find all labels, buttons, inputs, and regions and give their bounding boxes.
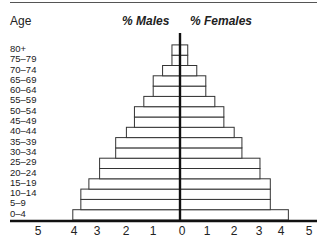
female-bar [180, 199, 270, 209]
tick-label: 0 [179, 224, 186, 238]
male-bar [89, 179, 180, 189]
tick-label: 2 [123, 224, 130, 238]
female-bar [180, 76, 206, 86]
tick-label: 4 [278, 224, 285, 238]
female-bar [180, 107, 224, 117]
male-bar [172, 55, 180, 65]
male-bar [81, 199, 180, 209]
female-bar [180, 179, 270, 189]
tick-label: 3 [256, 224, 263, 238]
male-bar [116, 138, 180, 148]
male-bar [81, 189, 180, 199]
male-bar [116, 148, 180, 158]
female-bar [180, 210, 288, 220]
male-bar [126, 127, 180, 137]
female-bar [180, 117, 224, 127]
tick-label: 2 [231, 224, 238, 238]
male-bar [172, 45, 180, 55]
tick-label: 4 [71, 224, 78, 238]
male-bar [134, 117, 180, 127]
female-bar [180, 148, 242, 158]
tick-label: 5 [306, 224, 313, 238]
male-bar [144, 96, 180, 106]
female-bar [180, 169, 260, 179]
female-bar [180, 127, 234, 137]
tick-label: 5 [35, 224, 42, 238]
female-bar [180, 189, 270, 199]
x-axis-tick-labels: 5 4 3 2 1 0 1 2 3 4 5 [0, 224, 317, 240]
male-bar [73, 210, 180, 220]
male-bar [153, 76, 180, 86]
pyramid-plot [0, 0, 317, 248]
male-bar [100, 169, 180, 179]
tick-label: 1 [150, 224, 157, 238]
tick-label: 1 [204, 224, 211, 238]
male-bar [134, 107, 180, 117]
male-bar [163, 66, 180, 76]
female-bar [180, 86, 206, 96]
tick-label: 3 [94, 224, 101, 238]
male-bar [100, 158, 180, 168]
female-bar [180, 66, 197, 76]
female-bar [180, 96, 215, 106]
female-bar [180, 138, 242, 148]
female-bar [180, 158, 260, 168]
male-bar [153, 86, 180, 96]
